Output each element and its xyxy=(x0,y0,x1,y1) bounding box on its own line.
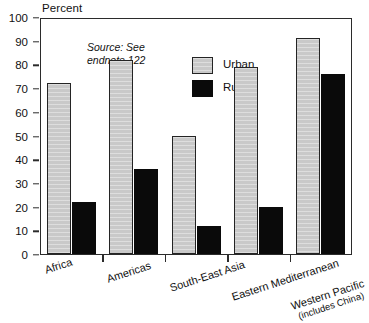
bar-rural-western-pacific xyxy=(321,74,345,254)
y-tick-mark xyxy=(33,207,39,208)
bar-urban-africa xyxy=(47,83,71,254)
y-tick-label: 10 xyxy=(15,225,28,237)
y-axis-title: Percent xyxy=(42,2,82,14)
bar-rural-americas xyxy=(134,169,158,254)
y-tick-mark xyxy=(33,231,39,232)
y-tick-label: 50 xyxy=(15,131,28,143)
x-label-text: Africa xyxy=(43,256,73,276)
bar-rural-eastern-mediterranean xyxy=(259,207,283,254)
x-label-western-pacific: Western Pacific(includes China) xyxy=(289,277,369,323)
bar-urban-americas xyxy=(109,60,133,254)
plot-area: Source: See endnote 122 Urban Rural xyxy=(40,18,352,255)
bar-urban-south-east-asia xyxy=(172,136,196,255)
y-tick-mark xyxy=(33,183,39,184)
y-tick-label: 90 xyxy=(15,36,28,48)
y-tick-label: 40 xyxy=(15,154,28,166)
x-axis-labels: AfricaAmericasSouth-East AsiaEastern Med… xyxy=(0,255,362,318)
y-tick-label: 60 xyxy=(15,107,28,119)
y-tick-label: 70 xyxy=(15,83,28,95)
y-tick-mark xyxy=(33,159,39,160)
y-tick-mark xyxy=(33,136,39,137)
y-tick-mark xyxy=(33,112,39,113)
x-label-americas: Americas xyxy=(106,259,153,285)
y-tick-label: 80 xyxy=(15,59,28,71)
y-tick-mark xyxy=(33,41,39,42)
y-tick-mark xyxy=(33,88,39,89)
bar-rural-africa xyxy=(72,202,96,254)
y-tick-label: 100 xyxy=(9,12,28,24)
x-label-africa: Africa xyxy=(43,256,73,276)
bar-urban-eastern-mediterranean xyxy=(234,67,258,254)
y-tick-mark xyxy=(33,65,39,66)
bar-rural-south-east-asia xyxy=(197,226,221,254)
bars-layer xyxy=(41,19,351,254)
x-label-text: Americas xyxy=(106,259,153,285)
y-tick-label: 30 xyxy=(15,178,28,190)
y-tick-label: 20 xyxy=(15,202,28,214)
x-label-south-east-asia: South-East Asia xyxy=(168,258,246,294)
bar-urban-western-pacific xyxy=(296,38,320,254)
x-label-text: South-East Asia xyxy=(168,258,246,294)
y-tick-mark xyxy=(33,17,39,18)
